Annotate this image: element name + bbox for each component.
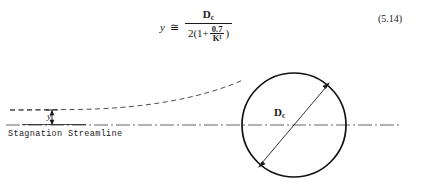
streamline-collector-diagram xyxy=(0,55,426,189)
inner-denominator: KI xyxy=(211,34,224,43)
equation-relation-approx-equal: ≅ xyxy=(170,20,179,33)
equation-fraction-inner: 0.7 KI xyxy=(210,25,225,43)
equation-numerator: Dc xyxy=(199,9,218,22)
equation-5-14: y ≅ Dc 2(1 + 0.7 KI ) xyxy=(160,4,270,48)
inner-denominator-base: K xyxy=(213,34,220,43)
inner-denominator-subscript: I xyxy=(219,35,221,41)
numerator-subscript: c xyxy=(211,13,214,22)
numerator-base: D xyxy=(203,8,211,20)
equation-number: (5.14) xyxy=(378,13,402,24)
diameter-label-subscript: c xyxy=(282,111,285,120)
y-offset-label: y xyxy=(47,111,51,121)
figure-page: y ≅ Dc 2(1 + 0.7 KI ) (5.14) xyxy=(0,0,426,189)
stagnation-streamline-label: Stagnation Streamline xyxy=(8,129,122,139)
denominator-suffix: ) xyxy=(225,28,229,39)
collector-diameter-label: Dc xyxy=(274,106,285,120)
equation-fraction-outer: Dc 2(1 + 0.7 KI ) xyxy=(185,9,232,42)
equation-denominator: 2(1 + 0.7 KI ) xyxy=(185,24,232,43)
denominator-prefix: 2(1 xyxy=(188,28,203,39)
diameter-label-base: D xyxy=(274,106,282,118)
stagnation-streamline-curve xyxy=(10,80,243,110)
inner-numerator: 0.7 xyxy=(210,25,225,34)
denominator-plus-sign: + xyxy=(203,28,209,39)
equation-lhs: y xyxy=(160,20,165,33)
